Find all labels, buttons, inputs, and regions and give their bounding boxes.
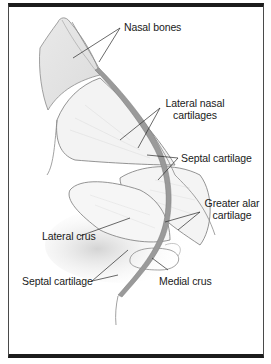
- label-line: Lateral nasal: [160, 97, 230, 109]
- label-line: Greater alar: [200, 197, 264, 209]
- label-medial-crus: Medial crus: [159, 275, 212, 287]
- label-line: cartilages: [160, 109, 230, 121]
- label-line: cartilage: [200, 209, 264, 221]
- nose-illustration: [0, 0, 271, 364]
- label-lateral-crus: Lateral crus: [42, 230, 96, 242]
- label-nasal-bones: Nasal bones: [124, 21, 181, 33]
- label-septal-cartilage-lower: Septal cartilage: [22, 275, 93, 287]
- label-septal-cartilage-upper: Septal cartilage: [181, 152, 252, 164]
- septum-tail: [116, 296, 118, 325]
- label-greater-alar-cartilage: Greater alar cartilage: [200, 197, 264, 221]
- lateral-nasal-cartilage-shape: [47, 78, 175, 175]
- label-lateral-nasal-cartilages: Lateral nasal cartilages: [160, 97, 230, 121]
